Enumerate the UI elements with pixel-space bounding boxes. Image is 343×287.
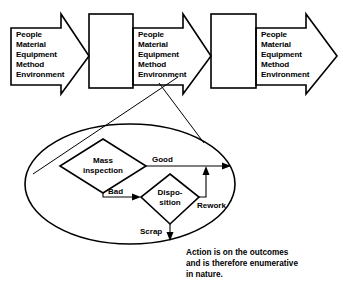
input-label-material-2: Material: [138, 40, 168, 49]
edge-scrap: Scrap: [140, 224, 174, 241]
caption-line-3: in nature.: [186, 270, 223, 279]
output-arrow-3-labels: People Material Equipment Method Environ…: [261, 30, 310, 79]
process-box-2: [211, 14, 256, 88]
diagram-root: People Material Equipment Method Environ…: [0, 0, 343, 287]
input-arrow-2: People Material Equipment Method Environ…: [133, 14, 211, 94]
disposition-label-line1: Dispo-: [158, 188, 183, 197]
caption-line-1: Action is on the outcomes: [186, 248, 289, 257]
callout-line-right: [159, 83, 204, 143]
rework-arrowhead: [203, 166, 210, 175]
edge-rework: Rework: [197, 166, 226, 210]
input-label-method-1: Method: [16, 60, 44, 69]
mass-inspection-label-line1: Mass: [93, 156, 114, 165]
node-disposition: Dispo- sition: [141, 174, 199, 224]
bad-arrowhead: [132, 194, 141, 201]
caption-line-2: and is therefore enumerative: [186, 259, 298, 268]
edge-bad: Bad: [103, 187, 141, 201]
process-flow-diagram: People Material Equipment Method Environ…: [0, 0, 343, 287]
input-label-material-1: Material: [16, 40, 46, 49]
input-label-equipment-1: Equipment: [16, 50, 57, 59]
edge-good: Good: [146, 155, 231, 170]
input-label-method-3: Method: [261, 60, 289, 69]
input-arrow-1: People Material Equipment Method Environ…: [11, 14, 89, 94]
edge-label-rework: Rework: [197, 201, 226, 210]
input-label-people-2: People: [138, 30, 165, 39]
input-label-environment-3: Environment: [261, 70, 310, 79]
input-label-equipment-3: Equipment: [261, 50, 302, 59]
caption-text: Action is on the outcomes and is therefo…: [186, 248, 298, 279]
input-label-environment-2: Environment: [138, 70, 187, 79]
input-label-material-3: Material: [261, 40, 291, 49]
input-arrow-1-labels: People Material Equipment Method Environ…: [16, 30, 65, 79]
disposition-label-line2: sition: [159, 198, 180, 207]
detail-ellipse: [25, 124, 235, 244]
callout-fan-lines: [33, 77, 204, 174]
input-label-method-2: Method: [138, 60, 166, 69]
input-label-environment-1: Environment: [16, 70, 65, 79]
output-arrow-3: People Material Equipment Method Environ…: [256, 14, 337, 94]
process-box-1: [89, 14, 133, 88]
input-label-people-1: People: [16, 30, 43, 39]
edge-label-scrap: Scrap: [140, 227, 162, 236]
input-label-people-3: People: [261, 30, 288, 39]
input-label-equipment-2: Equipment: [138, 50, 179, 59]
input-arrow-2-labels: People Material Equipment Method Environ…: [138, 30, 187, 79]
mass-inspection-label-line2: inspection: [83, 166, 123, 175]
edge-label-bad: Bad: [108, 187, 123, 196]
edge-label-good: Good: [152, 155, 173, 164]
